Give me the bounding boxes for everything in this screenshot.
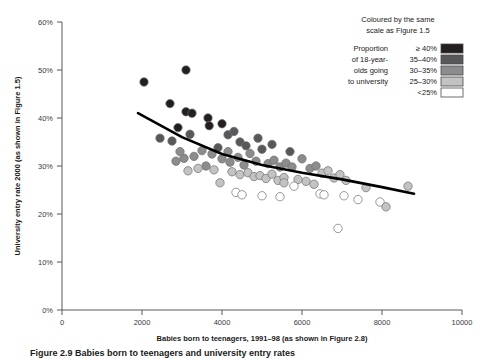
legend-entry-label: <25%: [418, 88, 438, 97]
x-axis-title: Babies born to teenagers, 1991–98 (as sh…: [157, 334, 368, 343]
y-tick-label: 10%: [38, 258, 53, 267]
y-tick-label: 0%: [42, 306, 53, 315]
x-tick-label: 2000: [134, 318, 151, 327]
data-point: [216, 179, 224, 187]
legend-swatch: [441, 77, 463, 86]
legend-title-line: Proportion: [353, 44, 388, 53]
data-point: [236, 170, 244, 178]
legend-swatch: [441, 44, 463, 53]
data-point: [184, 167, 192, 175]
data-point: [290, 182, 298, 190]
legend-header-line-1: Coloured by the same: [361, 15, 434, 24]
data-point: [186, 130, 194, 138]
scatter-chart: 0%10%20%30%40%50%60% 0200040006000800010…: [0, 0, 480, 359]
legend-title-line: olds going: [354, 66, 388, 75]
legend-swatch: [441, 88, 463, 97]
data-point: [226, 158, 234, 166]
data-point: [340, 192, 348, 200]
data-point: [312, 162, 320, 170]
data-point: [230, 127, 238, 135]
data-point: [270, 156, 278, 164]
y-tick-label: 20%: [38, 210, 53, 219]
y-axis-ticks: 0%10%20%30%40%50%60%: [38, 18, 62, 315]
x-axis-ticks: 0200040006000800010000: [60, 310, 473, 327]
data-point: [276, 193, 284, 201]
data-point: [166, 99, 174, 107]
data-point: [218, 120, 226, 128]
data-point: [302, 177, 310, 185]
y-tick-label: 60%: [38, 18, 53, 27]
data-point: [298, 155, 306, 163]
legend-entry-label: 30–35%: [409, 66, 437, 75]
data-point: [228, 168, 236, 176]
data-point: [242, 142, 250, 150]
legend-title-line: to university: [348, 77, 388, 86]
data-point: [324, 167, 332, 175]
x-tick-label: 0: [60, 318, 64, 327]
data-point: [204, 114, 212, 122]
y-tick-label: 50%: [38, 66, 53, 75]
data-point: [210, 166, 218, 174]
data-points: [140, 66, 412, 233]
data-point: [205, 121, 213, 129]
legend-header-line-2: scale as Figure 1.5: [366, 26, 429, 35]
legend-swatch: [441, 66, 463, 75]
data-point: [258, 192, 266, 200]
legend-title-line: of 18-year-: [352, 55, 389, 64]
data-point: [280, 179, 288, 187]
legend-entry-label: 35–40%: [409, 55, 437, 64]
data-point: [140, 78, 148, 86]
data-point: [334, 224, 342, 232]
data-point: [156, 134, 164, 142]
y-tick-label: 40%: [38, 114, 53, 123]
x-tick-label: 8000: [374, 318, 391, 327]
data-point: [188, 109, 196, 117]
data-point: [354, 195, 362, 203]
x-tick-label: 4000: [214, 318, 231, 327]
legend: Coloured by the samescale as Figure 1.5P…: [348, 15, 463, 97]
data-point: [190, 152, 198, 160]
x-tick-label: 10000: [452, 318, 473, 327]
figure-container: 0%10%20%30%40%50%60% 0200040006000800010…: [0, 0, 480, 359]
data-point: [174, 123, 182, 131]
data-point: [194, 164, 202, 172]
data-point: [268, 140, 276, 148]
y-tick-label: 30%: [38, 162, 53, 171]
data-point: [238, 191, 246, 199]
figure-caption: Figure 2.9 Babies born to teenagers and …: [30, 348, 295, 358]
figure-caption-clip: Figure 2.9 Babies born to teenagers and …: [0, 348, 480, 359]
legend-entry-label: 25–30%: [409, 77, 437, 86]
data-point: [286, 147, 294, 155]
data-point: [404, 182, 412, 190]
y-axis-title: University entry rate 2000 (as shown in …: [13, 76, 22, 255]
data-point: [254, 134, 262, 142]
data-point: [182, 66, 190, 74]
data-point: [258, 145, 266, 153]
data-point: [382, 203, 390, 211]
x-tick-label: 6000: [294, 318, 311, 327]
legend-swatch: [441, 55, 463, 64]
data-point: [176, 147, 184, 155]
data-point: [310, 180, 318, 188]
legend-entry-label: ≥ 40%: [416, 44, 438, 53]
data-point: [168, 137, 176, 145]
data-point: [246, 149, 254, 157]
data-point: [320, 191, 328, 199]
data-point: [202, 162, 210, 170]
data-point: [172, 157, 180, 165]
